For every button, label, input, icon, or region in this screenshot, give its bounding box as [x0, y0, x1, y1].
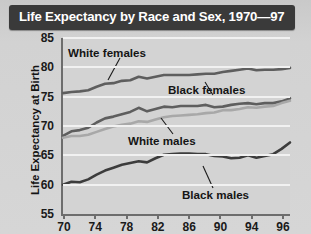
x-axis-tick: [157, 214, 159, 219]
x-axis-tick: [188, 214, 190, 219]
x-axis-tick-label: 70: [57, 220, 70, 234]
y-axis-tick-label: 75: [41, 90, 54, 104]
gridline: [63, 125, 290, 127]
gridline: [63, 37, 290, 39]
x-axis-tick: [126, 214, 128, 219]
y-axis-labels: 85807570656055: [0, 38, 58, 214]
x-axis-tick: [251, 214, 253, 219]
chart-area: Life Expectancy at Birth 85807570656055 …: [0, 30, 311, 234]
x-axis-tick-label: 90: [214, 220, 227, 234]
x-axis-tick-label: 86: [182, 220, 195, 234]
x-axis-tick-label: 94: [245, 220, 258, 234]
x-axis-tick-label: 96: [276, 220, 289, 234]
x-axis-tick-label: 78: [120, 220, 133, 234]
leader-line: [108, 58, 120, 80]
y-axis-tick-label: 70: [41, 119, 54, 133]
series-label-white-females: White females: [68, 46, 146, 59]
chart-figure: Life Expectancy by Race and Sex, 1970—97…: [0, 0, 311, 234]
x-axis-labels: 7074788286909496: [61, 220, 288, 234]
x-axis-tick: [219, 214, 221, 219]
series-label-white-males: White males: [128, 134, 196, 147]
y-axis-tick-label: 80: [41, 60, 54, 74]
x-axis-tick: [63, 214, 65, 219]
y-axis-tick-label: 55: [41, 207, 54, 221]
x-axis-tick-label: 82: [151, 220, 164, 234]
gridline: [63, 66, 290, 68]
x-axis-tick: [282, 214, 284, 219]
x-axis-tick: [94, 214, 96, 219]
x-axis-tick-label: 74: [89, 220, 102, 234]
series-label-black-females: Black females: [168, 83, 245, 96]
page-title: Life Expectancy by Race and Sex, 1970—97: [19, 9, 284, 24]
plot-region: [61, 38, 290, 216]
y-axis-tick-label: 60: [41, 178, 54, 192]
y-axis-tick-label: 65: [41, 148, 54, 162]
y-axis-tick-label: 85: [41, 31, 54, 45]
series-label-black-males: Black males: [182, 188, 249, 201]
gridline: [63, 184, 290, 186]
gridline: [63, 154, 290, 156]
chart-title-bar: Life Expectancy by Race and Sex, 1970—97: [9, 5, 295, 30]
